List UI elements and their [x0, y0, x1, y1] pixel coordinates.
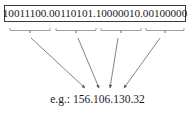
arrow-octet-1-icon [31, 38, 85, 88]
caption-text: e.g.: 156.106.130.32 [0, 93, 195, 107]
arrow-octet-2-icon [78, 38, 99, 88]
ip-address-diagram: 10011100.00110101.10000010.00100000 e.g.… [0, 0, 195, 116]
arrow-octet-3-icon [110, 38, 118, 88]
arrow-octet-4-icon [124, 38, 160, 88]
